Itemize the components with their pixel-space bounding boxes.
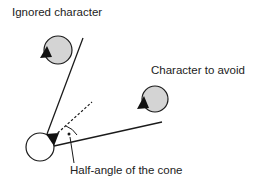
- label-ignored-character: Ignored character: [12, 6, 102, 18]
- cone-diagram: Ignored character Character to avoid Hal…: [0, 0, 265, 189]
- half-angle-leader: [70, 137, 74, 163]
- label-half-angle: Half-angle of the cone: [70, 164, 183, 176]
- label-character-to-avoid: Character to avoid: [151, 64, 245, 76]
- half-angle-dot: [68, 133, 71, 136]
- diagram-graphics: [0, 0, 265, 189]
